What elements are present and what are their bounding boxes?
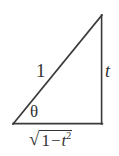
theta-angle-label: θ [30,103,38,120]
radicand-minus-sign: − [50,131,62,150]
trigonometry-figure: 1 t θ √ 1−t2 [0,0,119,156]
radicand-expression: 1−t2 [39,130,72,150]
adjacent-side-label: √ 1−t2 [29,130,72,150]
radical-sign-icon: √ [29,129,39,148]
hypotenuse-line [13,15,102,124]
opposite-side-label: t [105,62,110,80]
hypotenuse-label: 1 [36,61,46,80]
radicand-first-term: 1 [41,131,50,150]
radicand-exponent: 2 [66,130,71,141]
